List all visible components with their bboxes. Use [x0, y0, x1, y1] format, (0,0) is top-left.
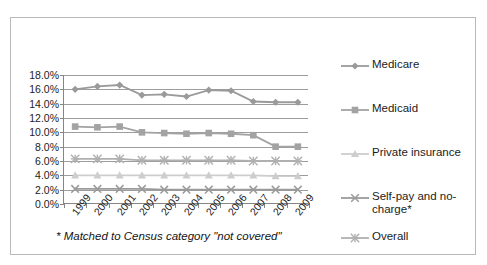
footnote-text: * Matched to Census category "not covere… [56, 230, 282, 242]
plot-wrapper: 18.0%16.0%14.0%12.0%10.0%8.0%6.0%4.0%2.0… [11, 18, 331, 256]
legend-marker-triangle-icon [341, 147, 369, 161]
data-point [72, 123, 79, 130]
data-point [294, 99, 301, 106]
data-point [139, 129, 146, 136]
data-point [94, 124, 101, 131]
data-point [72, 86, 79, 93]
data-point [183, 130, 190, 137]
data-point [205, 156, 213, 164]
data-point [94, 83, 101, 90]
legend-marker-cross-icon [341, 191, 369, 205]
data-point [115, 155, 123, 163]
y-tick-label: 2.0% [35, 184, 59, 196]
data-point [116, 81, 123, 88]
series-medicaid [72, 123, 301, 150]
data-point [161, 130, 168, 137]
data-point [182, 156, 190, 164]
legend-label: Private insurance [372, 146, 461, 159]
data-point [161, 91, 168, 98]
data-point [138, 156, 146, 164]
legend-label: Self-pay and no-charge* [372, 190, 473, 216]
y-tick-label: 6.0% [35, 155, 59, 167]
plot-area: 18.0%16.0%14.0%12.0%10.0%8.0%6.0%4.0%2.0… [63, 75, 308, 204]
legend-item-medicare[interactable]: Medicare [341, 58, 473, 73]
data-point [116, 123, 123, 130]
data-point [205, 130, 212, 137]
data-point [272, 143, 279, 150]
y-tick-label: 18.0% [29, 69, 59, 81]
data-point [227, 87, 234, 94]
y-tick-label: 14.0% [29, 98, 59, 110]
data-point [295, 143, 302, 150]
chart-frame: 18.0%16.0%14.0%12.0%10.0%8.0%6.0%4.0%2.0… [10, 17, 476, 255]
legend-marker-asterisk-icon [341, 231, 369, 245]
data-point [205, 86, 212, 93]
series-self-pay-and-no-charge [71, 185, 301, 193]
data-point [71, 155, 79, 163]
data-point [250, 98, 257, 105]
data-point [294, 157, 302, 165]
legend-item-self-pay-and-no-charge[interactable]: Self-pay and no-charge* [341, 190, 473, 216]
legend-item-medicaid[interactable]: Medicaid [341, 102, 473, 117]
y-tick-label: 0.0% [35, 198, 59, 210]
y-tick-label: 16.0% [29, 83, 59, 95]
data-point [250, 132, 257, 139]
legend-marker-square-icon [341, 103, 369, 117]
y-tick-label: 4.0% [35, 169, 59, 181]
y-tick-label: 10.0% [29, 126, 59, 138]
y-tick-label: 8.0% [35, 141, 59, 153]
data-point [249, 157, 257, 165]
data-point [160, 156, 168, 164]
legend-label: Medicare [372, 58, 419, 71]
legend-item-private-insurance[interactable]: Private insurance [341, 146, 473, 161]
series-overall [71, 155, 302, 166]
y-tick-label: 12.0% [29, 112, 59, 124]
legend-label: Overall [372, 230, 408, 243]
series-private-insurance [71, 171, 302, 179]
series-plot [64, 75, 309, 204]
data-point [183, 93, 190, 100]
data-point [272, 99, 279, 106]
data-point [93, 155, 101, 163]
data-point [271, 157, 279, 165]
legend-item-overall[interactable]: Overall [341, 230, 473, 245]
data-point [227, 156, 235, 164]
series-medicare [72, 81, 302, 105]
data-point [138, 91, 145, 98]
data-point [228, 130, 235, 137]
legend-marker-diamond-icon [341, 59, 369, 73]
legend-label: Medicaid [372, 102, 418, 115]
